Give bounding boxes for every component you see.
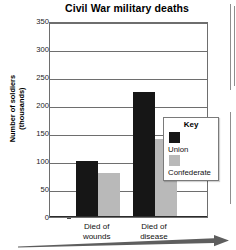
bar-union-0 [76, 161, 98, 217]
gridline-250 [50, 79, 207, 80]
y-axis-title: Number of soldiers (thousands) [9, 63, 26, 155]
y-tick-label-200: 200 [27, 102, 49, 110]
y-tick-label-100: 100 [27, 158, 49, 166]
page-edge-line-1 [230, 4, 231, 90]
x-axis-baseline [50, 216, 207, 217]
legend-label-union: Union [168, 145, 188, 154]
y-axis-title-line2: (thousands) [18, 63, 27, 155]
timeline-arrow-icon [18, 234, 230, 248]
y-tick-mark-0 [67, 218, 71, 219]
bar-union-1 [133, 92, 155, 217]
legend-swatch-union [169, 132, 180, 143]
y-tick-label-50: 50 [27, 186, 49, 194]
y-tick-label-350: 350 [27, 18, 49, 26]
gridline-350 [50, 23, 207, 24]
gridline-300 [50, 51, 207, 52]
category-label-0-line1: Died of [84, 222, 109, 231]
gridline-50 [50, 191, 207, 192]
gridline-200 [50, 107, 207, 108]
timeline-arrow [18, 234, 230, 248]
page-edge-line-2 [230, 112, 231, 204]
y-tick-label-250: 250 [27, 74, 49, 82]
legend-label-confederate: Confederate [168, 168, 211, 177]
legend-swatch-confederate [169, 155, 180, 166]
y-axis-title-line1: Number of soldiers [8, 75, 17, 142]
y-tick-label-0: 0 [27, 214, 49, 222]
y-tick-label-300: 300 [27, 46, 49, 54]
page-edge-line-3 [234, 6, 235, 86]
legend-key-box: Key Union Confederate [163, 117, 219, 181]
bar-confederate-0 [98, 173, 120, 217]
legend-title: Key [164, 120, 218, 129]
category-label-1-line1: Died of [141, 222, 166, 231]
chart-page: Civil War military deaths Number of sold… [0, 0, 236, 250]
y-tick-label-150: 150 [27, 130, 49, 138]
chart-title: Civil War military deaths [42, 2, 212, 14]
